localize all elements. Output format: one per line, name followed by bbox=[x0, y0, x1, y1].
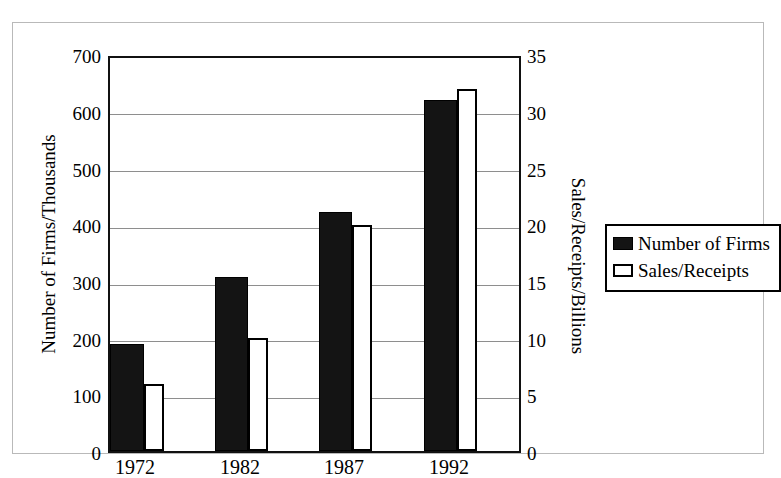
legend-swatch-filled-square-icon bbox=[613, 237, 633, 250]
bar-sales-1982[interactable] bbox=[248, 338, 268, 451]
bar-sales-1987[interactable] bbox=[352, 225, 372, 451]
legend-label-sales-receipts: Sales/Receipts bbox=[638, 261, 749, 280]
legend-label-number-of-firms: Number of Firms bbox=[638, 234, 770, 253]
left-tick-700: 700 bbox=[41, 47, 101, 66]
legend-item-sales-receipts[interactable]: Sales/Receipts bbox=[613, 257, 773, 284]
x-axis-tick-labels: 1972 1982 1987 1992 bbox=[108, 456, 521, 478]
y-axis-left-title: Number of Firms/Thousands bbox=[38, 84, 60, 404]
right-tick-35: 35 bbox=[527, 47, 577, 66]
figure-frame: 700 600 500 400 300 200 100 0 35 30 25 2… bbox=[12, 22, 764, 454]
bar-firms-1972[interactable] bbox=[110, 344, 144, 451]
x-tick-1992: 1992 bbox=[404, 456, 494, 478]
right-tick-0: 0 bbox=[527, 444, 577, 463]
chart-legend: Number of Firms Sales/Receipts bbox=[605, 224, 781, 292]
x-tick-1982: 1982 bbox=[195, 456, 285, 478]
plot-area bbox=[108, 56, 521, 453]
x-tick-1972: 1972 bbox=[90, 456, 180, 478]
legend-item-number-of-firms[interactable]: Number of Firms bbox=[613, 230, 773, 257]
y-axis-right-title: Sales/Receipts/Billions bbox=[567, 106, 589, 426]
bar-firms-1992[interactable] bbox=[424, 100, 457, 451]
x-tick-1987: 1987 bbox=[299, 456, 389, 478]
legend-swatch-outlined-square-icon bbox=[613, 264, 633, 277]
bar-firms-1982[interactable] bbox=[215, 277, 248, 451]
bar-sales-1972[interactable] bbox=[144, 384, 164, 451]
bar-firms-1987[interactable] bbox=[319, 212, 352, 451]
bar-sales-1992[interactable] bbox=[457, 89, 477, 451]
